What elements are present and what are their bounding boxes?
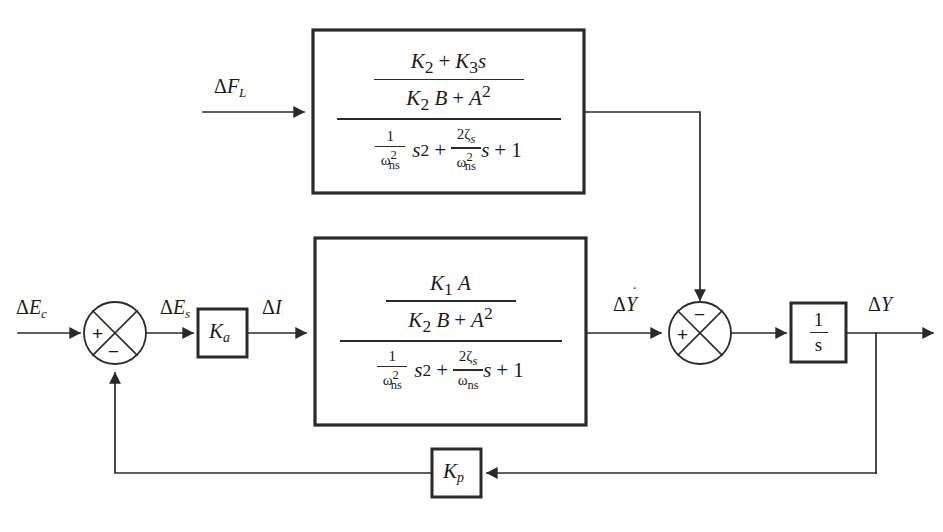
integrator-fraction-bar bbox=[810, 332, 828, 334]
b1-inner-bar bbox=[374, 79, 524, 81]
transfer-function-load-disturbance: K2+K3s K2 B+A2 1 ω2ns s2 bbox=[313, 30, 584, 193]
b2-inner-numerator: K1 A bbox=[427, 271, 474, 299]
summing-junction-2-minus-sign: − bbox=[694, 305, 705, 324]
label-input-command: ΔEc bbox=[16, 297, 47, 320]
label-current: ΔI bbox=[262, 297, 282, 317]
b2-inner-denominator: K2 B+A2 bbox=[405, 303, 495, 336]
b2-main-bar bbox=[340, 340, 562, 342]
figure-canvas: ΔFL ΔEc ΔEs ΔI ΔY˙ ΔY + − + − Ka Kp 1 s bbox=[0, 0, 943, 532]
b1-inner-numerator: K2+K3s bbox=[408, 49, 490, 77]
summing-junction-1-minus-sign: − bbox=[108, 342, 119, 361]
label-feedback-gain: Kp bbox=[443, 461, 464, 485]
b2-characteristic-polynomial: 1 ω2ns s2 + 2ζs ωns s + 1 bbox=[374, 343, 526, 393]
integrator-numerator: 1 bbox=[811, 309, 827, 331]
b2-inner-bar bbox=[386, 300, 516, 302]
label-error: ΔEs bbox=[160, 297, 190, 320]
label-velocity: ΔY˙ bbox=[613, 294, 637, 314]
b1-characteristic-polynomial: 1 ω2ns s2 + 2ζs ω2ns s + 1 bbox=[372, 121, 524, 174]
label-amplifier-gain: Ka bbox=[209, 321, 230, 345]
integrator-denominator: s bbox=[812, 334, 825, 356]
summing-junction-1-plus-sign: + bbox=[92, 324, 103, 343]
transfer-function-forward-path: K1 A K2 B+A2 1 ω2ns s2 bbox=[315, 238, 586, 425]
b1-main-bar bbox=[337, 118, 561, 120]
label-load-force: ΔFL bbox=[214, 76, 246, 99]
label-output: ΔY bbox=[868, 294, 892, 314]
label-integrator: 1 s bbox=[791, 303, 846, 362]
summing-junction-2-plus-sign: + bbox=[677, 325, 688, 344]
b1-inner-denominator: K2 B+A2 bbox=[403, 81, 493, 114]
wire-load-path-to-sum bbox=[584, 112, 700, 300]
